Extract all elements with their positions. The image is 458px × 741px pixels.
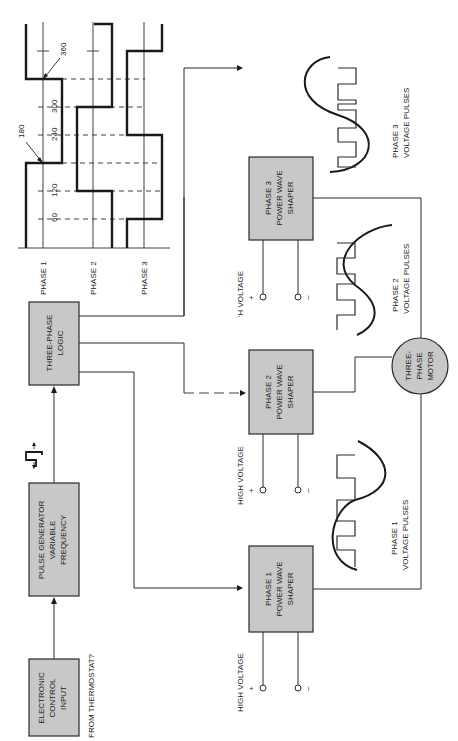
arrowhead <box>51 597 57 604</box>
phase2-waveform <box>77 24 112 248</box>
timing-phase3-label: PHASE 3 <box>140 261 149 295</box>
callout-180-arrow <box>26 142 41 161</box>
diagram-svg: 60 120 180 240 300 360 PHASE 1 PHASE 2 P… <box>0 0 458 741</box>
deg-180-label: 180 <box>17 124 26 138</box>
timing-phase1-label: PHASE 1 <box>39 261 48 295</box>
timing-diagram: 60 120 180 240 300 360 PHASE 1 PHASE 2 P… <box>17 22 170 295</box>
arrowhead <box>51 386 57 393</box>
pulse-generator-line3: FREQUENCY <box>59 514 68 565</box>
phase3-waveform <box>127 24 162 248</box>
motor-line3: MOTOR <box>426 351 435 381</box>
phase1-shaper-line1: PHASE 1 <box>264 572 273 606</box>
phase1-pulses-label-2: VOLTAGE PULSES <box>401 500 410 570</box>
three-phase-logic-line1: THREE-PHASE <box>45 315 54 372</box>
phase1-plus-terminal <box>260 685 266 691</box>
plus-sign: + <box>247 488 256 493</box>
phase2-high-voltage-label: HIGH VOLTAGE <box>236 446 245 505</box>
phase1-pulses-label-1: PHASE 1 <box>390 521 399 555</box>
phase2-plus-terminal <box>260 487 266 493</box>
phase3-high-voltage-label: 'H VOLTAGE <box>236 271 245 317</box>
logic-to-phase2-wire <box>79 343 184 393</box>
phase1-shaper-line2: POWER WAVE <box>275 561 284 616</box>
deg-360-label: 360 <box>59 42 68 56</box>
phase3-shaper-line1: PHASE 3 <box>264 181 273 215</box>
phase2-shaper-line3: SHAPER <box>286 375 295 408</box>
minus-sign: – <box>303 686 312 691</box>
phase2-pulses-label-2: VOLTAGE PULSES <box>402 244 411 314</box>
plus-sign: + <box>247 686 256 691</box>
phase3-pulses-label-2: VOLTAGE PULSES <box>402 88 411 158</box>
phase1-high-voltage-label: HIGH VOLTAGE <box>236 653 245 712</box>
arrowhead <box>237 65 243 71</box>
phase2-shaper-line2: POWER WAVE <box>275 364 284 419</box>
logic-to-phase3-wire <box>79 197 184 316</box>
phase3-shaper-line2: POWER WAVE <box>275 170 284 225</box>
deg-300-label: 300 <box>50 99 59 113</box>
logic-to-phase1-wire <box>79 372 240 588</box>
electronic-control-line1: ELECTRONIC <box>37 672 46 724</box>
phase2-shaper-line1: PHASE 2 <box>264 375 273 409</box>
three-phase-logic-line2: LOGIC <box>56 330 65 355</box>
phase2-minus-terminal <box>295 487 301 493</box>
phase2-pulse-waveform <box>337 225 392 335</box>
from-thermostat-label: FROM THERMOSTAT? <box>87 653 96 738</box>
arrowhead <box>237 585 243 591</box>
arrowhead <box>240 390 246 396</box>
phase3-pulses-label-1: PHASE 3 <box>391 124 400 158</box>
phase3-pulse-waveform <box>305 57 369 172</box>
motor-line1: THREE- <box>404 351 413 381</box>
motor-line2: PHASE <box>415 352 424 379</box>
phase1-pulse-waveform <box>333 441 386 570</box>
three-phase-logic-block <box>29 302 79 385</box>
phase3-minus-terminal <box>295 294 301 300</box>
electronic-control-line3: INPUT <box>59 686 68 710</box>
callout-360-arrow <box>45 58 60 77</box>
electronic-control-line2: CONTROL <box>48 678 57 718</box>
minus-sign: – <box>303 488 312 493</box>
phase2-to-motor-wire <box>313 357 392 392</box>
deg-240-label: 240 <box>50 127 59 141</box>
phase1-shaper-line3: SHAPER <box>286 572 295 605</box>
minus-sign: – <box>303 295 312 300</box>
phase3-plus-terminal <box>260 294 266 300</box>
diagram-canvas: 60 120 180 240 300 360 PHASE 1 PHASE 2 P… <box>0 0 458 741</box>
phase3-shaper-line3: SHAPER <box>286 181 295 214</box>
timing-phase2-label: PHASE 2 <box>89 261 98 295</box>
deg-60-label: 60 <box>50 213 59 222</box>
phase1-minus-terminal <box>295 685 301 691</box>
pulse-generator-line1: PULSE GENERATOR <box>37 501 46 580</box>
phase2-pulses-label-1: PHASE 2 <box>391 278 400 312</box>
pulse-generator-line2: VARIABLE <box>48 521 57 560</box>
deg-120-label: 120 <box>50 183 59 197</box>
logic-to-phase3-route <box>184 68 240 316</box>
plus-sign: + <box>247 295 256 300</box>
